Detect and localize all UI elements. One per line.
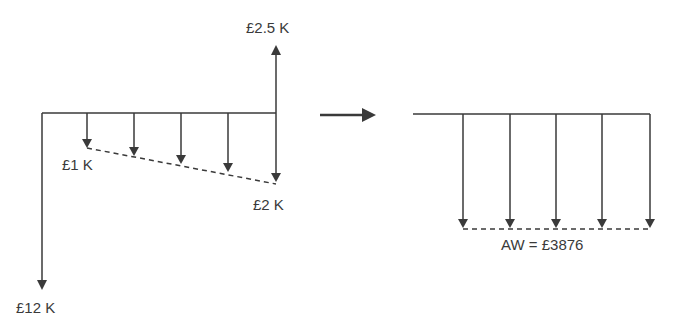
receipt-label: £2.5 K	[246, 20, 289, 35]
right-arrow-icon	[320, 108, 376, 122]
initial-cost-label: £12 K	[16, 300, 55, 315]
initial-cost-arrowhead-icon	[37, 280, 47, 290]
right-cash-flow-diagram	[413, 114, 655, 229]
gradient-start-label: £1 K	[62, 157, 93, 172]
cash-flow-diagrams	[0, 0, 682, 330]
gradient-end-label: £2 K	[253, 197, 284, 212]
annual-worth-label: AW = £3876	[501, 237, 583, 252]
receipt-arrowhead-icon	[271, 45, 281, 55]
